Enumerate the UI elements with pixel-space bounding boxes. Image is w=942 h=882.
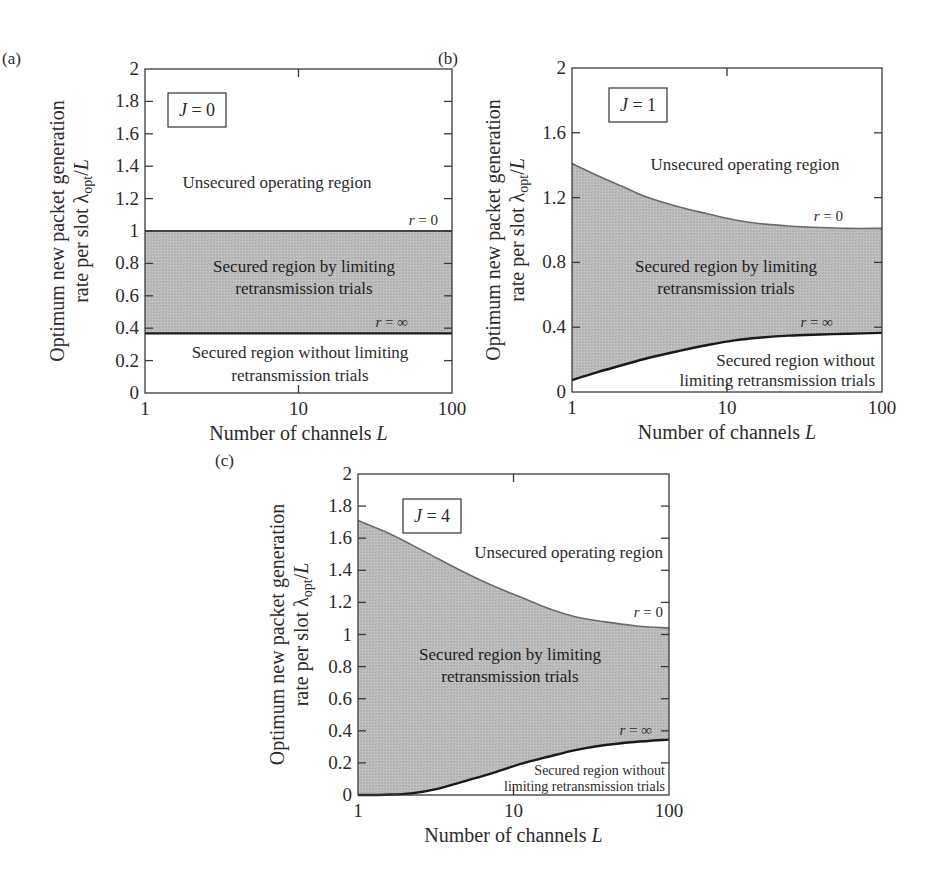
y-axis-title-line2: rate per slot λopt/L — [70, 159, 95, 303]
label-secured-limiting-line2: retransmission trials — [657, 279, 794, 298]
label-r-infinity: r = ∞ — [376, 314, 409, 330]
label-secured-nolimit-line1: Secured region without limiting — [192, 343, 409, 362]
y-tick-label: 0.6 — [328, 688, 352, 709]
y-axis-title-line1: Optimum new packet generation — [482, 99, 505, 361]
x-tick-label: 10 — [289, 398, 308, 419]
panel-label: (b) — [438, 49, 458, 68]
y-tick-label: 1.6 — [542, 122, 566, 143]
x-axis-title: Number of channels L — [209, 422, 387, 444]
chart-panel-b: 00.40.81.21.62110100Number of channels L… — [438, 49, 896, 443]
y-tick-label: 1.6 — [115, 123, 139, 144]
y-axis-title-line1: Optimum new packet generation — [46, 100, 69, 362]
label-secured-nolimit-line2: limiting retransmission trials — [680, 371, 875, 390]
y-tick-label: 0.8 — [328, 656, 352, 677]
x-tick-label: 1 — [353, 800, 363, 821]
label-r-infinity: r = ∞ — [620, 722, 653, 738]
y-tick-label: 0.4 — [542, 316, 566, 337]
label-unsecured-region: Unsecured operating region — [474, 543, 663, 562]
label-secured-nolimit-line1: Secured region without — [716, 351, 875, 370]
y-tick-label: 1.2 — [542, 187, 566, 208]
y-tick-label: 1 — [343, 624, 353, 645]
figure: 00.20.40.60.811.21.41.61.82110100Number … — [0, 0, 942, 882]
x-tick-label: 10 — [504, 800, 523, 821]
y-tick-label: 1 — [130, 220, 140, 241]
label-secured-nolimit-line1: Secured region without — [534, 763, 665, 778]
panel-label: (a) — [2, 49, 21, 68]
y-tick-label: 2 — [130, 58, 140, 79]
label-secured-limiting-line1: Secured region by limiting — [213, 257, 395, 276]
x-axis-title: Number of channels L — [638, 421, 816, 443]
y-tick-label: 1.8 — [328, 495, 352, 516]
y-tick-label: 2 — [557, 57, 567, 78]
y-tick-label: 2 — [343, 463, 353, 484]
label-r-infinity: r = ∞ — [801, 314, 834, 330]
x-tick-label: 100 — [655, 800, 684, 821]
label-unsecured-region: Unsecured operating region — [651, 155, 840, 174]
chart-panel-a: 00.20.40.60.811.21.41.61.82110100Number … — [2, 49, 466, 444]
y-tick-label: 1.4 — [328, 559, 352, 580]
j-annotation-label: J = 1 — [620, 95, 656, 115]
label-r-zero: r = 0 — [814, 208, 843, 224]
x-axis-title: Number of channels L — [424, 824, 602, 846]
label-r-zero: r = 0 — [634, 604, 663, 620]
x-tick-label: 1 — [567, 397, 577, 418]
label-secured-limiting-line1: Secured region by limiting — [419, 645, 601, 664]
y-tick-label: 0.8 — [115, 252, 139, 273]
y-tick-label: 0.4 — [115, 317, 139, 338]
label-secured-nolimit-line2: limiting retransmission trials — [504, 779, 665, 794]
label-r-zero: r = 0 — [409, 212, 438, 228]
label-secured-limiting-line1: Secured region by limiting — [635, 257, 817, 276]
chart-panel-c: 00.20.40.60.811.21.41.61.82110100Number … — [215, 451, 683, 846]
y-tick-label: 0 — [557, 381, 567, 402]
y-tick-label: 0.8 — [542, 251, 566, 272]
x-tick-label: 100 — [438, 398, 467, 419]
y-tick-label: 1.8 — [115, 90, 139, 111]
y-tick-label: 1.4 — [115, 155, 139, 176]
y-tick-label: 0.4 — [328, 720, 352, 741]
label-secured-limiting-line2: retransmission trials — [441, 667, 578, 686]
y-tick-label: 0.6 — [115, 285, 139, 306]
y-tick-label: 0 — [130, 382, 140, 403]
y-tick-label: 1.2 — [328, 591, 352, 612]
y-tick-label: 1.2 — [115, 188, 139, 209]
x-tick-label: 100 — [868, 397, 897, 418]
label-secured-nolimit-line2: retransmission trials — [231, 366, 368, 385]
y-axis-title-line2: rate per slot λopt/L — [290, 563, 315, 707]
j-annotation-label: J = 4 — [414, 506, 450, 526]
label-secured-limiting-line2: retransmission trials — [235, 279, 372, 298]
y-axis-title-line2: rate per slot λopt/L — [506, 158, 531, 302]
y-axis-title-line1: Optimum new packet generation — [266, 504, 289, 766]
y-tick-label: 0.2 — [115, 350, 139, 371]
x-tick-label: 10 — [718, 397, 737, 418]
panel-label: (c) — [215, 451, 234, 470]
y-tick-label: 1.6 — [328, 527, 352, 548]
figure-canvas: 00.20.40.60.811.21.41.61.82110100Number … — [0, 0, 942, 882]
y-tick-label: 0.2 — [328, 752, 352, 773]
y-tick-label: 0 — [343, 784, 353, 805]
label-unsecured-region: Unsecured operating region — [183, 173, 372, 192]
x-tick-label: 1 — [140, 398, 150, 419]
j-annotation-label: J = 0 — [179, 100, 215, 120]
